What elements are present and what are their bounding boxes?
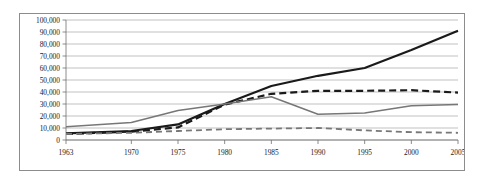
y-axis-label: 70,000 [40, 52, 61, 61]
gray-solid-series [66, 97, 458, 127]
x-axis-label: 1995 [357, 148, 372, 157]
line-chart: 010,00020,00030,00040,00050,00060,00070,… [20, 14, 464, 170]
y-axis-label: 40,000 [40, 88, 61, 97]
y-axis-label: 20,000 [40, 112, 61, 121]
x-axis-label: 1980 [217, 148, 232, 157]
y-axis-label: 90,000 [40, 28, 61, 37]
x-axis-label: 1975 [171, 148, 186, 157]
chart-plot-frame: 010,00020,00030,00040,00050,00060,00070,… [19, 13, 465, 171]
gridlines [66, 20, 458, 140]
x-axis-tick-labels: 196319701975198019851990199520002005 [59, 148, 464, 157]
black-solid-series [66, 31, 458, 134]
x-axis-label: 1963 [59, 148, 74, 157]
x-axis-label: 1985 [264, 148, 279, 157]
y-axis-label: 50,000 [40, 76, 61, 85]
y-axis-label: 100,000 [36, 16, 60, 25]
chart-figure: 010,00020,00030,00040,00050,00060,00070,… [0, 0, 487, 191]
black-dashed-series [66, 90, 458, 134]
y-axis-label: 80,000 [40, 40, 61, 49]
x-axis-label: 2000 [404, 148, 419, 157]
x-axis-label: 1990 [311, 148, 326, 157]
y-axis-label: 60,000 [40, 64, 61, 73]
x-axis-tick-marks [66, 140, 458, 144]
chart-series [66, 31, 458, 134]
y-axis-label: 30,000 [40, 100, 61, 109]
x-axis-label: 1970 [124, 148, 139, 157]
y-axis-label: 0 [56, 136, 60, 145]
x-axis-label: 2005 [451, 148, 464, 157]
y-axis-tick-labels: 010,00020,00030,00040,00050,00060,00070,… [36, 16, 60, 145]
y-axis-label: 10,000 [40, 124, 61, 133]
